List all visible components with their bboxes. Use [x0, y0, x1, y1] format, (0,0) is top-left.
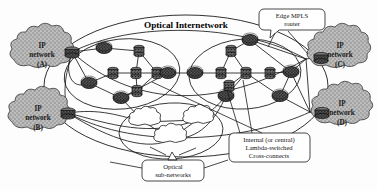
network-diagram-figure: IP network (A) IP network (B) IP network… [0, 0, 377, 191]
ip-network-c-line3: (C) [335, 61, 346, 69]
edge-mpls-router-label-line1: Edge MPLS [276, 12, 309, 19]
ip-network-a-line3: (A) [37, 61, 48, 69]
edge-mpls-router-label-line2: router [284, 20, 301, 27]
ip-network-c-line2: network [327, 51, 353, 59]
optical-subnetworks-label-line1: Optical [163, 163, 183, 170]
ip-network-b-line1: IP [34, 105, 42, 113]
ip-network-a-line2: network [29, 51, 55, 59]
edge-router-a [65, 47, 79, 58]
optical-subnetworks-label-line2: sub-networks [155, 171, 191, 178]
xc-r3 [241, 67, 251, 78]
crossconnects-label-line3: Cross-connects [249, 152, 290, 159]
xc-l1 [134, 45, 144, 56]
xc-r1 [226, 45, 236, 56]
edge-router-d [315, 107, 329, 118]
ip-network-d-line2: network [329, 109, 355, 117]
ip-network-b-line3: (B) [33, 124, 43, 132]
ip-network-c-line1: IP [336, 42, 344, 50]
xc-l2 [108, 67, 118, 78]
edge-router-c [314, 52, 328, 63]
xc-l5 [132, 85, 142, 96]
crossconnects-label-line2: Lambda-switched [245, 144, 293, 151]
page-title: Optical Internetwork [144, 20, 229, 30]
ip-network-d-line1: IP [338, 100, 346, 108]
ip-network-a-line1: IP [38, 42, 46, 50]
diagram-canvas: IP network (A) IP network (B) IP network… [0, 0, 377, 191]
xc-r5 [224, 80, 234, 91]
xc-r4 [265, 67, 275, 78]
xc-l3 [131, 67, 141, 78]
xc-r2 [216, 67, 226, 78]
ip-network-d-line3: (D) [337, 119, 348, 127]
edge-router-b [61, 108, 75, 119]
crossconnects-label-line1: Internal (or central) [243, 136, 295, 144]
ip-network-b-line2: network [25, 114, 51, 122]
